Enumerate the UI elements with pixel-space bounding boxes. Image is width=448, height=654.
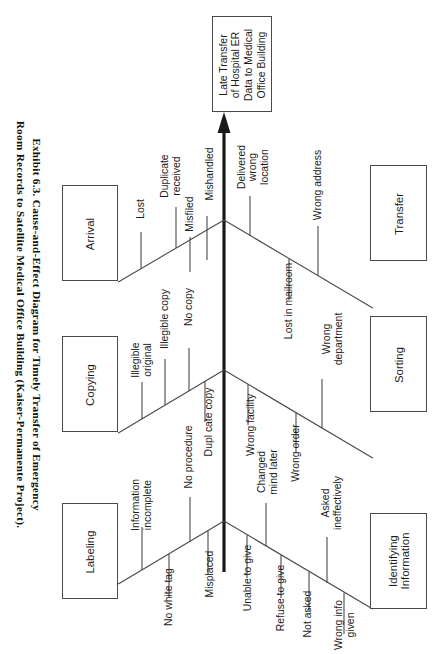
effect-line-3: Data to Medical	[243, 29, 256, 101]
category-box-arrival: Arrival	[62, 185, 118, 281]
rib-copying	[120, 370, 224, 432]
category-label-line-1: Identifying	[388, 533, 400, 590]
category-label-line-2: Information	[400, 533, 412, 590]
category-box-transfer: Transfer	[370, 165, 427, 261]
spine-arrowhead	[218, 112, 231, 133]
connector-transfer	[371, 307, 373, 308]
connector-copying	[118, 432, 120, 433]
rib-transfer	[224, 220, 371, 307]
category-box-identifying-information: Identifying Information	[370, 513, 427, 609]
category-box-labeling: Labeling	[62, 503, 118, 599]
category-box-sorting: Sorting	[370, 316, 427, 412]
category-box-copying: Copying	[62, 336, 118, 432]
category-label-identifying-information: Identifying Information	[385, 513, 415, 609]
effect-label: Late Transfer of Hospital ER Data to Med…	[225, 17, 261, 113]
effect-box: Late Transfer of Hospital ER Data to Med…	[212, 16, 272, 112]
category-label-sorting: Sorting	[392, 317, 408, 413]
connector-sorting	[371, 457, 373, 458]
connector-arrival	[118, 281, 120, 282]
category-label-arrival: Arrival	[83, 186, 99, 282]
effect-line-4: Office Building	[256, 29, 269, 101]
connector-labeling	[118, 583, 120, 584]
rib-sorting	[224, 370, 371, 457]
rib-arrival	[120, 220, 224, 281]
effect-line-1: Late Transfer	[218, 29, 231, 101]
effect-line-2: of Hospital ER	[230, 29, 243, 101]
category-label-labeling: Labeling	[83, 504, 99, 600]
rib-identifying-information	[224, 521, 371, 608]
category-label-copying: Copying	[83, 337, 99, 433]
category-label-transfer: Transfer	[392, 166, 408, 262]
